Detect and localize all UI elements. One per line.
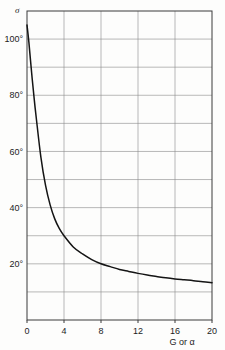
plot-border [27,11,212,320]
x-tick-label: 16 [170,326,180,336]
x-tick-label: 12 [133,326,143,336]
x-axis-tick-labels: 048121620 [24,326,217,336]
y-tick-label: 20° [9,259,23,269]
x-tick-label: 8 [98,326,103,336]
plot-frame [27,11,212,320]
x-tick-label: 20 [207,326,217,336]
y-tick-label: 40° [9,203,23,213]
y-tick-label: 80° [9,90,23,100]
chart-container: 20°40°60°80°100° 048121620 σ G or α [0,0,225,350]
grid-lines-horizontal [27,39,212,292]
chart-plot: 20°40°60°80°100° 048121620 σ G or α [0,0,225,350]
data-curve-line [27,25,212,283]
y-axis-tick-labels: 20°40°60°80°100° [4,34,23,269]
data-series-curve [27,25,212,283]
y-tick-label: 60° [9,147,23,157]
y-axis-label: σ [15,5,20,15]
x-tick-label: 4 [61,326,66,336]
x-tick-label: 0 [24,326,29,336]
y-tick-label: 100° [4,34,23,44]
x-axis-label: G or α [169,337,194,347]
grid-lines-vertical [64,11,175,320]
